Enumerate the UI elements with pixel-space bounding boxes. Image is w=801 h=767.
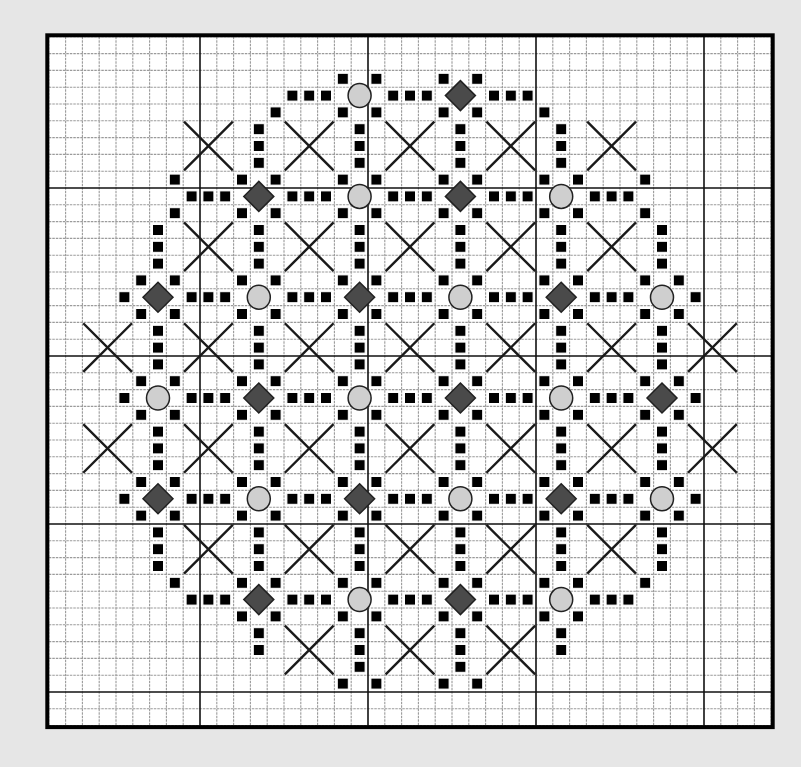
small-square-icon bbox=[522, 594, 533, 605]
small-square-icon bbox=[220, 393, 231, 404]
small-square-icon bbox=[472, 577, 483, 588]
small-square-icon bbox=[169, 376, 180, 387]
small-square-icon bbox=[203, 292, 214, 303]
small-square-icon bbox=[472, 208, 483, 219]
small-square-icon bbox=[573, 409, 584, 420]
small-square-icon bbox=[169, 275, 180, 286]
small-square-icon bbox=[640, 174, 651, 185]
small-square-icon bbox=[354, 628, 365, 639]
small-square-icon bbox=[556, 241, 567, 252]
circle-icon bbox=[550, 386, 573, 410]
circle-icon bbox=[550, 184, 573, 208]
small-square-icon bbox=[673, 275, 684, 286]
small-square-icon bbox=[337, 73, 348, 84]
small-square-icon bbox=[169, 477, 180, 488]
small-square-icon bbox=[455, 561, 466, 572]
small-square-icon bbox=[337, 107, 348, 118]
small-square-icon bbox=[657, 241, 668, 252]
small-square-icon bbox=[455, 661, 466, 672]
small-square-icon bbox=[556, 460, 567, 471]
small-square-icon bbox=[522, 292, 533, 303]
small-square-icon bbox=[287, 594, 298, 605]
small-square-icon bbox=[505, 393, 516, 404]
small-square-icon bbox=[354, 561, 365, 572]
small-square-icon bbox=[354, 527, 365, 538]
small-square-icon bbox=[337, 174, 348, 185]
small-square-icon bbox=[253, 544, 264, 555]
small-square-icon bbox=[438, 275, 449, 286]
small-square-icon bbox=[690, 292, 701, 303]
small-square-icon bbox=[455, 141, 466, 152]
small-square-icon bbox=[253, 460, 264, 471]
small-square-icon bbox=[522, 90, 533, 101]
small-square-icon bbox=[321, 191, 332, 202]
small-square-icon bbox=[438, 409, 449, 420]
small-square-icon bbox=[388, 191, 399, 202]
small-square-icon bbox=[388, 292, 399, 303]
small-square-icon bbox=[253, 124, 264, 135]
small-square-icon bbox=[589, 493, 600, 504]
small-square-icon bbox=[539, 477, 550, 488]
small-square-icon bbox=[153, 342, 164, 353]
small-square-icon bbox=[287, 292, 298, 303]
small-square-icon bbox=[253, 258, 264, 269]
small-square-icon bbox=[472, 678, 483, 689]
small-square-icon bbox=[186, 393, 197, 404]
small-square-icon bbox=[539, 309, 550, 320]
small-square-icon bbox=[673, 510, 684, 521]
small-square-icon bbox=[253, 628, 264, 639]
small-square-icon bbox=[337, 409, 348, 420]
small-square-icon bbox=[489, 493, 500, 504]
small-square-icon bbox=[556, 544, 567, 555]
small-square-icon bbox=[253, 225, 264, 236]
small-square-icon bbox=[287, 393, 298, 404]
small-square-icon bbox=[169, 510, 180, 521]
small-square-icon bbox=[337, 275, 348, 286]
small-square-icon bbox=[220, 292, 231, 303]
small-square-icon bbox=[354, 141, 365, 152]
small-square-icon bbox=[690, 393, 701, 404]
small-square-icon bbox=[253, 241, 264, 252]
small-square-icon bbox=[472, 275, 483, 286]
small-square-icon bbox=[304, 493, 315, 504]
small-square-icon bbox=[354, 544, 365, 555]
small-square-icon bbox=[606, 393, 617, 404]
small-square-icon bbox=[304, 393, 315, 404]
small-square-icon bbox=[455, 426, 466, 437]
small-square-icon bbox=[371, 577, 382, 588]
small-square-icon bbox=[371, 208, 382, 219]
small-square-icon bbox=[421, 594, 432, 605]
small-square-icon bbox=[640, 376, 651, 387]
small-square-icon bbox=[657, 426, 668, 437]
small-square-icon bbox=[237, 174, 248, 185]
small-square-icon bbox=[455, 460, 466, 471]
small-square-icon bbox=[253, 359, 264, 370]
small-square-icon bbox=[522, 191, 533, 202]
circle-icon bbox=[348, 386, 371, 410]
small-square-icon bbox=[556, 359, 567, 370]
small-square-icon bbox=[556, 124, 567, 135]
small-square-icon bbox=[354, 258, 365, 269]
small-square-icon bbox=[539, 208, 550, 219]
small-square-icon bbox=[455, 443, 466, 454]
small-square-icon bbox=[186, 493, 197, 504]
small-square-icon bbox=[237, 577, 248, 588]
small-square-icon bbox=[505, 493, 516, 504]
small-square-icon bbox=[657, 359, 668, 370]
small-square-icon bbox=[455, 342, 466, 353]
small-square-icon bbox=[606, 292, 617, 303]
small-square-icon bbox=[673, 309, 684, 320]
circle-icon bbox=[651, 487, 674, 511]
small-square-icon bbox=[237, 275, 248, 286]
small-square-icon bbox=[573, 174, 584, 185]
small-square-icon bbox=[253, 141, 264, 152]
small-square-icon bbox=[657, 342, 668, 353]
small-square-icon bbox=[321, 292, 332, 303]
small-square-icon bbox=[556, 443, 567, 454]
small-square-icon bbox=[237, 309, 248, 320]
small-square-icon bbox=[153, 325, 164, 336]
small-square-icon bbox=[657, 325, 668, 336]
small-square-icon bbox=[237, 611, 248, 622]
small-square-icon bbox=[270, 376, 281, 387]
small-square-icon bbox=[153, 561, 164, 572]
